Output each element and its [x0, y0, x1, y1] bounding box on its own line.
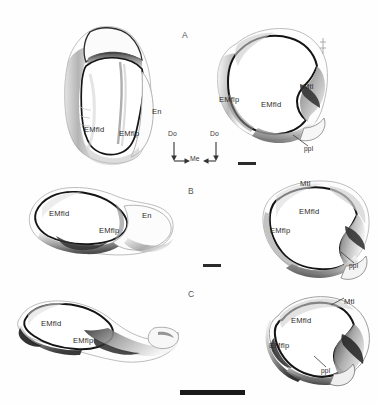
leader-line-ppl-a [292, 134, 314, 148]
panel-letter-c: C [188, 289, 195, 299]
specimen-c-lateral [8, 296, 183, 368]
label-emflp-c-right: EMflp [269, 341, 289, 350]
label-emflp-c-left: EMflp [73, 336, 93, 345]
compass-label-do-right: Do [210, 130, 219, 137]
label-mtl-b-right: Mtl [300, 179, 311, 188]
label-en-a-left: En [152, 107, 162, 116]
scale-bar-a [238, 162, 256, 165]
label-emfld-a-right: EMfld [261, 100, 281, 109]
scale-bar-main [180, 390, 245, 395]
label-emfld-b-left: EMfld [49, 209, 69, 218]
specimen-c-articular [256, 290, 376, 386]
compass-label-me: Me [190, 155, 199, 162]
specimen-a-lateral [38, 22, 188, 172]
label-emfld-b-right: EMfld [299, 207, 319, 216]
leader-line-ppl-b [340, 251, 360, 265]
label-mtl-a-right: Mtl [303, 82, 314, 91]
panel-letter-b: B [188, 186, 194, 196]
leader-line-ppl-c [312, 355, 330, 369]
label-emflp-a-left: EMflp [119, 129, 139, 138]
orientation-indicator: Do Do Me [168, 130, 226, 168]
label-emflp-b-right: EMflp [270, 226, 290, 235]
label-emfld-a-left: EMfld [84, 125, 104, 134]
label-en-b-left: En [142, 211, 152, 220]
scale-bar-b [203, 264, 221, 267]
compass-label-do-left: Do [168, 130, 177, 137]
leader-line-mtl-c [330, 296, 348, 308]
specimen-b-lateral [16, 180, 181, 262]
label-emfld-c-left: EMfld [41, 319, 61, 328]
label-emfld-c-right: EMfld [291, 316, 311, 325]
label-emflp-a-right: EMflp [219, 95, 239, 104]
label-emflp-b-left: EMflp [99, 226, 119, 235]
figure-canvas: A B C [0, 0, 378, 405]
